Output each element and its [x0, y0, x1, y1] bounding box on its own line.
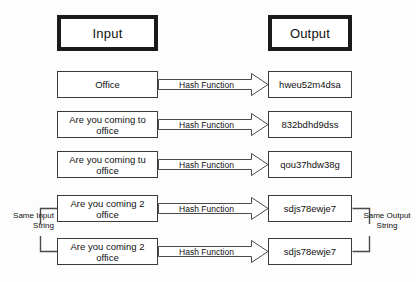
input-text-row-5: Are you coming 2 office [60, 241, 155, 263]
hash-label-row-1: Hash Function [158, 71, 269, 98]
hash-label-row-4: Hash Function [158, 195, 269, 222]
input-box-row-1: Office [57, 71, 158, 98]
input-text-row-4: Are you coming 2 office [60, 198, 155, 220]
input-box-row-3: Are you coming tu office [57, 151, 158, 178]
input-text-row-1: Office [95, 79, 120, 90]
diagram-canvas: Input Output Office Hash Function hweu52… [0, 0, 416, 282]
input-box-row-5: Are you coming 2 office [57, 238, 158, 265]
output-box-row-2: 832bdhd9dss [268, 111, 352, 138]
output-text-row-4: sdjs78ewje7 [284, 203, 336, 214]
output-text-row-2: 832bdhd9dss [281, 119, 338, 130]
output-box-row-1: hweu52m4dsa [268, 71, 352, 98]
output-box-row-3: qou37hdw38g [268, 151, 352, 178]
header-output-label: Output [290, 26, 330, 41]
output-text-row-5: sdjs78ewje7 [284, 246, 336, 257]
input-text-row-3: Are you coming tu office [60, 154, 155, 176]
input-box-row-2: Are you coming to office [57, 111, 158, 138]
output-box-row-5: sdjs78ewje7 [268, 238, 352, 265]
hash-label-row-2: Hash Function [158, 111, 269, 138]
output-text-row-1: hweu52m4dsa [279, 79, 341, 90]
same-input-string-label: Same Input String [2, 211, 54, 230]
input-box-row-4: Are you coming 2 office [57, 195, 158, 222]
output-box-row-4: sdjs78ewje7 [268, 195, 352, 222]
header-input-label: Input [93, 26, 123, 41]
input-text-row-2: Are you coming to office [60, 114, 155, 136]
header-box-input: Input [57, 15, 158, 51]
header-box-output: Output [268, 15, 352, 51]
same-output-string-label: Same Output String [360, 211, 414, 230]
hash-label-row-3: Hash Function [158, 151, 269, 178]
output-text-row-3: qou37hdw38g [280, 159, 340, 170]
hash-label-row-5: Hash Function [158, 238, 269, 265]
